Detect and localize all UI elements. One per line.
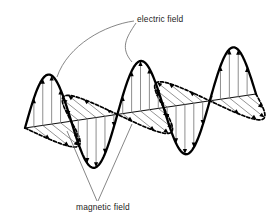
em-wave-figure: electric field magnetic field — [0, 0, 269, 222]
magnetic-field-arrow-shaft — [132, 112, 152, 128]
magnetic-field-leader-right — [98, 124, 132, 201]
magnetic-field-arrow-shaft — [71, 98, 96, 118]
magnetic-field-leader-left — [67, 131, 97, 201]
magnetic-field-arrow-shaft — [247, 95, 260, 105]
electric-field-label: electric field — [137, 14, 184, 24]
electric-field-group — [25, 47, 256, 167]
magnetic-field-label: magnetic field — [76, 202, 130, 212]
electric-field-leader-left — [57, 21, 134, 77]
em-wave-diagram: electric field magnetic field — [0, 0, 269, 222]
electric-field-leader-center — [125, 23, 136, 62]
